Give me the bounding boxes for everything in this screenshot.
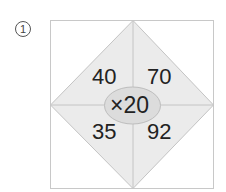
cell-bottom-left: 35	[92, 121, 116, 143]
cell-bottom-right: 92	[147, 121, 171, 143]
center-multiplier: ×20	[110, 94, 149, 117]
cell-top-right: 70	[147, 66, 171, 88]
cell-top-left: 40	[92, 66, 116, 88]
